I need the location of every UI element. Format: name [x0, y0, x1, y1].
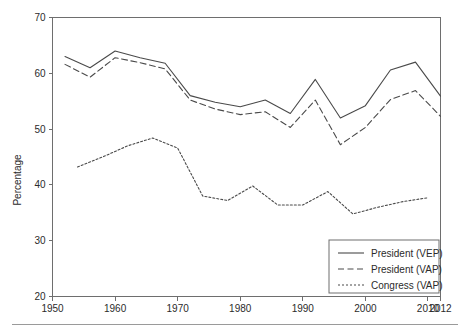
y-axis-ticks: 203040506070	[34, 12, 52, 302]
y-tick-label: 70	[34, 12, 46, 23]
y-tick-label: 30	[34, 235, 46, 246]
legend-label-2: President (VAP)	[371, 264, 442, 275]
x-tick-label: 1970	[167, 303, 190, 314]
y-tick-label: 40	[34, 179, 46, 190]
voter-turnout-line-chart: 203040506070 195019601970198019902000201…	[0, 0, 470, 336]
x-tick-label: 1990	[292, 303, 315, 314]
y-axis-title: Percentage	[12, 154, 23, 206]
legend-label-1: President (VEP)	[371, 248, 443, 259]
x-tick-label: 1950	[41, 303, 64, 314]
x-tick-label: 1960	[104, 303, 127, 314]
x-axis-ticks: 19501960197019801990200020102012	[41, 297, 452, 314]
legend-label-3: Congress (VAP)	[371, 280, 443, 291]
x-tick-label: 2012	[429, 303, 452, 314]
series-line-president-vep	[65, 51, 440, 118]
series-line-president-vap	[65, 58, 440, 145]
series-line-congress-vap	[78, 138, 428, 214]
y-tick-label: 20	[34, 291, 46, 302]
figure-container: 203040506070 195019601970198019902000201…	[0, 0, 470, 336]
data-series-group	[65, 51, 440, 214]
chart-legend: President (VEP)President (VAP)Congress (…	[329, 240, 443, 293]
x-tick-label: 2000	[354, 303, 377, 314]
x-tick-label: 1980	[229, 303, 252, 314]
y-tick-label: 60	[34, 68, 46, 79]
y-tick-label: 50	[34, 124, 46, 135]
